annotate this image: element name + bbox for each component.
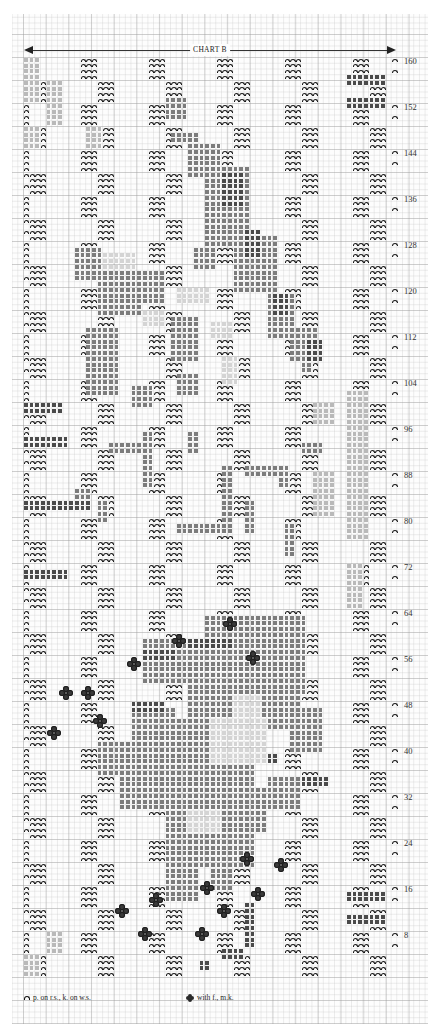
purl-stitch-icon: [23, 471, 29, 477]
purl-stitch-icon: [176, 126, 182, 132]
color-stitch-square: [227, 483, 233, 489]
purl-stitch-icon: [363, 753, 369, 759]
color-stitch-square: [301, 615, 307, 621]
purl-stitch-icon: [244, 557, 250, 563]
purl-stitch-icon: [91, 672, 97, 678]
purl-stitch-icon: [108, 460, 114, 466]
purl-stitch-icon: [295, 885, 301, 891]
purl-stitch-icon: [244, 310, 250, 316]
purl-stitch-icon: [108, 322, 114, 328]
purl-stitch-icon: [176, 925, 182, 931]
color-stitch-square: [57, 92, 63, 98]
purl-stitch-icon: [108, 540, 114, 546]
color-stitch-square: [57, 948, 63, 954]
purl-stitch-icon: [380, 828, 386, 834]
purl-stitch-icon: [312, 316, 318, 322]
purl-stitch-icon: [391, 149, 397, 155]
purl-stitch-icon: [159, 379, 165, 385]
purl-stitch-icon: [108, 603, 114, 609]
purl-stitch-icon: [108, 695, 114, 701]
purl-stitch-icon: [91, 431, 97, 437]
purl-stitch-icon: [227, 937, 233, 943]
purl-stitch-icon: [380, 126, 386, 132]
purl-stitch-icon: [391, 517, 397, 523]
purl-stitch-icon: [380, 782, 386, 788]
color-stitch-square: [329, 506, 335, 512]
color-stitch-square: [244, 212, 250, 218]
purl-stitch-icon: [108, 868, 114, 874]
purl-stitch-icon: [40, 368, 46, 374]
color-stitch-square: [57, 115, 63, 121]
purl-stitch-icon: [363, 793, 369, 799]
purl-stitch-icon: [295, 943, 301, 949]
bobble-icon: [246, 651, 260, 665]
color-stitch-square: [114, 327, 120, 333]
color-stitch-square: [357, 592, 363, 598]
purl-stitch-icon: [295, 287, 301, 293]
purl-stitch-icon: [108, 506, 114, 512]
purl-stitch-icon: [227, 299, 233, 305]
purl-stitch-icon: [380, 132, 386, 138]
purl-stitch-icon: [391, 839, 397, 845]
purl-stitch-icon: [363, 253, 369, 259]
purl-stitch-icon: [244, 362, 250, 368]
color-stitch-square: [97, 247, 103, 253]
purl-stitch-icon: [363, 299, 369, 305]
purl-stitch-icon: [312, 649, 318, 655]
purl-stitch-icon: [91, 477, 97, 483]
purl-stitch-icon: [23, 799, 29, 805]
purl-stitch-icon: [380, 644, 386, 650]
purl-stitch-icon: [23, 207, 29, 213]
purl-stitch-icon: [176, 920, 182, 926]
color-stitch-square: [227, 488, 233, 494]
purl-stitch-icon: [380, 592, 386, 598]
purl-stitch-icon: [40, 276, 46, 282]
row-number-label: 120: [404, 286, 417, 296]
purl-stitch-icon: [380, 879, 386, 885]
purl-stitch-icon: [40, 143, 46, 149]
color-stitch-square: [284, 465, 290, 471]
purl-stitch-icon: [159, 396, 165, 402]
row-number-label: 64: [404, 608, 413, 618]
purl-stitch-icon: [23, 839, 29, 845]
purl-stitch-icon: [312, 828, 318, 834]
purl-stitch-icon: [159, 580, 165, 586]
purl-stitch-icon: [23, 155, 29, 161]
color-stitch-square: [312, 327, 318, 333]
purl-stitch-icon: [108, 143, 114, 149]
purl-stitch-icon: [312, 586, 318, 592]
purl-stitch-icon: [159, 563, 165, 569]
purl-stitch-icon: [176, 218, 182, 224]
purl-stitch-icon: [227, 161, 233, 167]
color-stitch-square: [250, 931, 256, 937]
purl-stitch-icon: [108, 730, 114, 736]
purl-stitch-icon: [40, 546, 46, 552]
purl-stitch-icon: [363, 385, 369, 391]
purl-stitch-icon: [363, 339, 369, 345]
purl-stitch-icon: [23, 851, 29, 857]
purl-stitch-icon: [312, 92, 318, 98]
color-stitch-square: [380, 74, 386, 80]
purl-stitch-icon: [23, 713, 29, 719]
purl-stitch-icon: [40, 460, 46, 466]
purl-stitch-icon: [312, 281, 318, 287]
purl-stitch-icon: [159, 517, 165, 523]
purl-stitch-icon: [108, 126, 114, 132]
purl-stitch-icon: [312, 373, 318, 379]
purl-stitch-icon: [40, 644, 46, 650]
color-stitch-square: [329, 419, 335, 425]
purl-stitch-icon: [159, 621, 165, 627]
color-stitch-square: [227, 477, 233, 483]
purl-stitch-icon: [363, 563, 369, 569]
purl-stitch-icon: [380, 966, 386, 972]
purl-stitch-icon: [23, 345, 29, 351]
purl-stitch-icon: [391, 943, 397, 949]
purl-stitch-icon: [40, 822, 46, 828]
row-number-label: 8: [404, 930, 408, 940]
purl-stitch-icon: [23, 149, 29, 155]
purl-stitch-icon: [363, 759, 369, 765]
purl-stitch-icon: [23, 488, 29, 494]
purl-stitch-icon: [40, 322, 46, 328]
purl-stitch-icon: [295, 759, 301, 765]
purl-stitch-icon: [108, 465, 114, 471]
